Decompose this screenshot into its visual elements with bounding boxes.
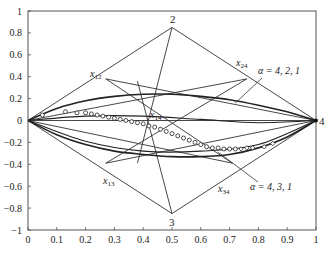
y-tick-label: 0.8 (10, 27, 23, 38)
y-tick-label: −0.6 (4, 181, 22, 192)
circle-marker (216, 146, 220, 150)
y-tick-label: −1 (11, 225, 22, 236)
circle-marker (205, 145, 209, 149)
circle-marker (228, 147, 232, 151)
label-x24: x24 (235, 57, 248, 70)
x-tick-label: 0.5 (166, 234, 179, 245)
x-tick-label: 0.1 (51, 234, 64, 245)
circle-marker (158, 127, 162, 131)
circle-marker (40, 113, 44, 117)
annotation-alpha-421: α = 4, 2, 1 (258, 65, 300, 76)
y-tick-label: −0.2 (4, 137, 22, 148)
x-tick-label: 0.4 (137, 234, 150, 245)
circle-marker (147, 124, 151, 128)
curve (28, 121, 316, 157)
circle-marker (141, 122, 145, 126)
y-tick-label: −0.8 (4, 203, 22, 214)
circle-marker (170, 132, 174, 136)
construction-line (137, 27, 172, 163)
circle-marker (193, 140, 197, 144)
construction-line (28, 121, 172, 214)
construction-line (137, 81, 172, 213)
y-tick-label: 1 (17, 6, 22, 17)
circle-marker (233, 147, 237, 151)
x-tick-label: 0.6 (195, 234, 208, 245)
vertex-label-4: 4 (319, 115, 325, 127)
circle-marker (107, 115, 111, 119)
circle-marker (153, 125, 157, 129)
annotation-pointer (235, 78, 262, 103)
curves (28, 94, 316, 157)
circle-marker (101, 114, 105, 118)
y-tick-label: −0.4 (4, 159, 22, 170)
circle-marker (75, 111, 79, 115)
x-tick-label: 0 (26, 234, 31, 245)
chart: 00.10.20.30.40.50.60.70.80.9110.80.60.40… (0, 0, 327, 256)
x-tick-label: 1 (314, 234, 319, 245)
circle-marker (118, 117, 122, 121)
construction-line (172, 121, 316, 214)
vertex-label-2: 2 (170, 13, 176, 25)
annotation-pointer (218, 152, 258, 182)
circle-marker (222, 147, 226, 151)
x-tick-label: 0.9 (281, 234, 294, 245)
circle-marker (130, 120, 134, 124)
y-tick-label: 0.2 (10, 93, 23, 104)
label-x13: x13 (102, 175, 115, 188)
x-tick-label: 0.8 (252, 234, 265, 245)
curve (28, 121, 316, 153)
circle-marker (84, 111, 88, 115)
vertex-4-dot (314, 119, 318, 123)
circle-marker (135, 121, 139, 125)
circle-marker (182, 136, 186, 140)
x-tick-label: 0.3 (108, 234, 121, 245)
y-tick-label: 0.6 (10, 49, 23, 60)
circle-marker (63, 110, 67, 114)
circle-marker (187, 138, 191, 142)
vertex-label-3: 3 (169, 216, 175, 228)
y-tick-label: 0 (17, 115, 22, 126)
circle-marker (89, 112, 93, 116)
annotation-alpha-431: α = 4, 3, 1 (250, 181, 292, 192)
circle-marker (95, 113, 99, 117)
label-x12: x12 (89, 68, 102, 81)
curve (28, 116, 316, 123)
y-tick-label: 0.4 (10, 71, 23, 82)
label-x34: x34 (217, 183, 230, 196)
circle-marker (164, 129, 168, 133)
circle-marker (112, 116, 116, 120)
circle-marker (210, 146, 214, 150)
circle-marker (124, 119, 128, 123)
x-tick-label: 0.7 (223, 234, 236, 245)
circle-marker (176, 134, 180, 138)
circle-marker (199, 143, 203, 147)
x-tick-label: 0.2 (79, 234, 92, 245)
